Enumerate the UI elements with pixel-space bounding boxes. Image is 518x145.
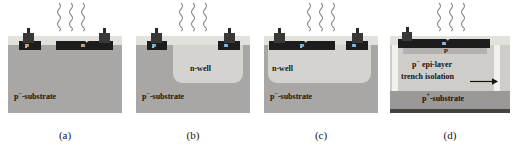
p-substrate-a [8,45,122,113]
contact-pad-c-right [352,33,363,43]
contact-pad-b-right [224,33,235,43]
trench-isolation-label-d: trench isolation [401,72,454,81]
trench-isolation-left-d [392,45,398,91]
panel-caption-c: (c) [264,129,378,141]
backside-metal-d [390,109,510,113]
contact-pad-a-left [23,33,34,43]
n-well-label-b: n-well [190,64,211,73]
p-plus-label-c: p+ [300,41,307,49]
contact-pad-c-left [274,33,285,43]
substrate-label-d: p+-substrate [422,94,464,103]
panel-d: n+ p p− epi-layer trench isolation p+-su… [390,0,514,145]
n-plus-label-a: n+ [81,41,88,49]
epi-layer-label-d: p− epi-layer [412,60,452,69]
panel-b: n-well p+ n+ p−-substrate (b) [136,0,266,145]
panel-c-stage: n-well p+ n+ p−-substrate [264,28,378,113]
n-well-label-c: n-well [272,64,293,73]
panel-a-stage: p+ n+ p−-substrate [8,28,122,113]
panel-c: n-well p+ n+ p−-substrate (c) [264,0,394,145]
photon-arrows-a [54,2,90,32]
contact-pad-b-left [151,33,162,43]
panel-caption-b: (b) [136,129,250,141]
photon-arrows-d [434,2,470,32]
substrate-label-c: p−-substrate [270,92,312,101]
photodiode-cross-section-figure: p+ n+ p−-substrate (a) [0,0,518,145]
p-body-label-d: p [444,46,448,54]
panel-b-stage: n-well p+ n+ p−-substrate [136,28,250,113]
panel-a: p+ n+ p−-substrate (a) [8,0,138,145]
substrate-label-a: p−-substrate [14,92,56,101]
panel-caption-d: (d) [390,129,510,141]
panel-caption-a: (a) [8,129,122,141]
panel-d-stage: n+ p p− epi-layer trench isolation p+-su… [390,28,510,113]
photon-arrows-b [176,2,212,32]
trench-pointer-arrow-d [470,72,498,90]
contact-pad-d [402,32,412,41]
substrate-label-b: p−-substrate [142,92,184,101]
photon-arrows-c [304,2,340,32]
contact-pad-a-right [99,33,110,43]
